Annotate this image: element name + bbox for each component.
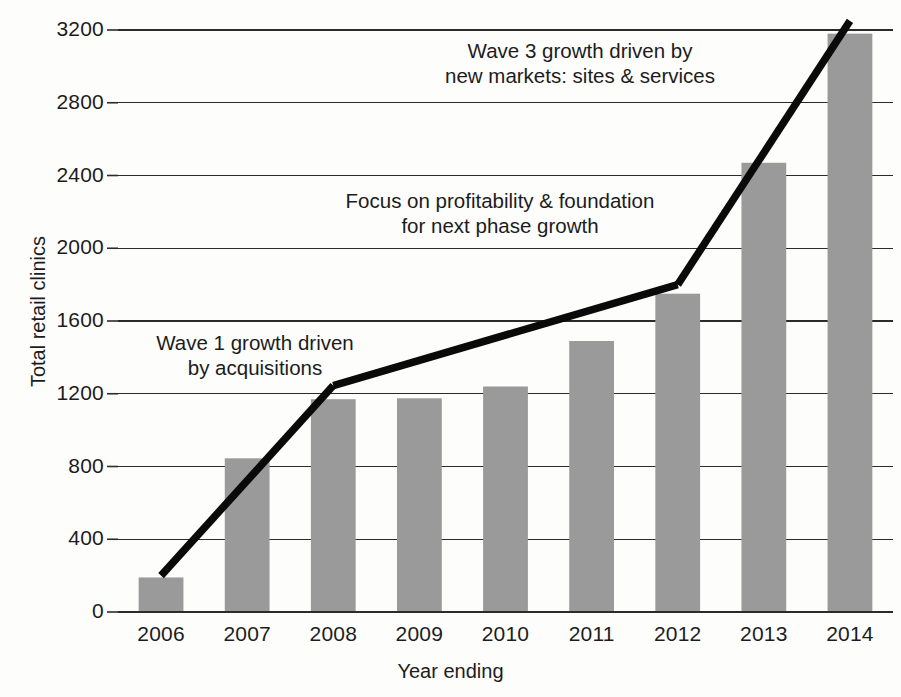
- bars-group: [139, 34, 873, 612]
- wave-1-annotation-line-1: Wave 1 growth driven: [110, 330, 400, 355]
- y-tick-label: 800: [18, 454, 104, 478]
- bar-2011: [569, 341, 614, 612]
- wave-3-annotation-line-2: new markets: sites & services: [400, 63, 760, 88]
- y-tick-label: 400: [18, 526, 104, 550]
- y-tick-label: 3200: [18, 17, 104, 41]
- x-tick-label-2013: 2013: [719, 622, 809, 646]
- profitability-annotation: Focus on profitability & foundation for …: [300, 188, 700, 238]
- bar-2009: [397, 398, 442, 612]
- x-tick-label-2006: 2006: [116, 622, 206, 646]
- x-tick-label-2009: 2009: [374, 622, 464, 646]
- bar-2010: [483, 386, 528, 612]
- wave-3-annotation: Wave 3 growth driven by new markets: sit…: [400, 38, 760, 88]
- wave-3-annotation-line-1: Wave 3 growth driven by: [400, 38, 760, 63]
- x-tick-label-2011: 2011: [547, 622, 637, 646]
- y-axis-title: Total retail clinics: [27, 212, 50, 412]
- x-tick-label-2007: 2007: [202, 622, 292, 646]
- x-tick-label-2012: 2012: [633, 622, 723, 646]
- x-tick-label-2008: 2008: [288, 622, 378, 646]
- x-axis-title: Year ending: [0, 660, 901, 683]
- wave-1-annotation-line-2: by acquisitions: [110, 355, 400, 380]
- y-tickmarks-group: [107, 30, 118, 612]
- x-tick-label-2010: 2010: [461, 622, 551, 646]
- y-tick-label: 2400: [18, 163, 104, 187]
- y-tick-label: 0: [18, 599, 104, 623]
- profitability-annotation-line-1: Focus on profitability & foundation: [300, 188, 700, 213]
- chart-figure: 0400800120016002000240028003200 20062007…: [0, 0, 901, 697]
- profitability-annotation-line-2: for next phase growth: [300, 213, 700, 238]
- x-tick-label-2014: 2014: [805, 622, 895, 646]
- y-tick-label: 2800: [18, 90, 104, 114]
- bar-2012: [655, 294, 700, 612]
- bar-2008: [311, 399, 356, 612]
- bar-2014: [828, 34, 873, 612]
- bar-2006: [139, 577, 184, 612]
- wave-1-annotation: Wave 1 growth driven by acquisitions: [110, 330, 400, 380]
- bar-2013: [741, 163, 786, 612]
